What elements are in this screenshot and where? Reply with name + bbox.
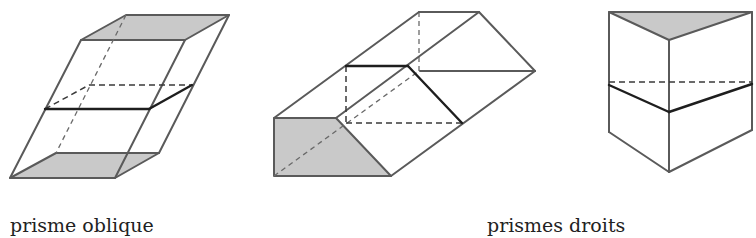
prisms-diagram <box>0 0 756 238</box>
caption-oblique-prism: prisme oblique <box>10 214 154 236</box>
triangular-bottom-left <box>609 132 669 172</box>
right-prism-lying <box>274 12 535 176</box>
right-prism-triangular <box>609 12 752 172</box>
oblique-prism <box>10 15 229 178</box>
triangular-section-right <box>669 84 752 112</box>
lying-front-face <box>274 118 391 176</box>
caption-right-prisms: prismes droits <box>487 214 625 236</box>
lying-edge-back-slant <box>479 12 535 71</box>
triangular-top-face <box>609 12 752 40</box>
lying-section-slant <box>408 66 462 123</box>
oblique-bottom-face <box>10 153 159 178</box>
triangular-bottom-right <box>669 130 752 172</box>
triangular-section-left <box>609 85 669 112</box>
oblique-top-face <box>81 15 229 40</box>
